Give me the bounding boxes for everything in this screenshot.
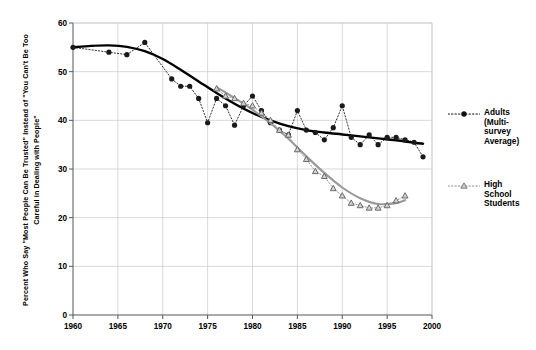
legend-label-adults: Adults (Multi-survey Average) [484, 108, 532, 146]
legend-label-students: High School Students [484, 180, 532, 209]
legend-marker-triangle-icon [448, 181, 480, 191]
series-adults [70, 40, 425, 160]
chart-figure: Percent Who Say "Most People Can Be Trus… [0, 0, 536, 350]
legend-marker-circle-icon [448, 109, 480, 119]
legend-item-students[interactable]: High School Students [448, 180, 532, 226]
series-students [214, 86, 408, 211]
chart-legend: Adults (Multi-survey Average) High Schoo… [448, 108, 532, 252]
legend-item-adults[interactable]: Adults (Multi-survey Average) [448, 108, 532, 154]
